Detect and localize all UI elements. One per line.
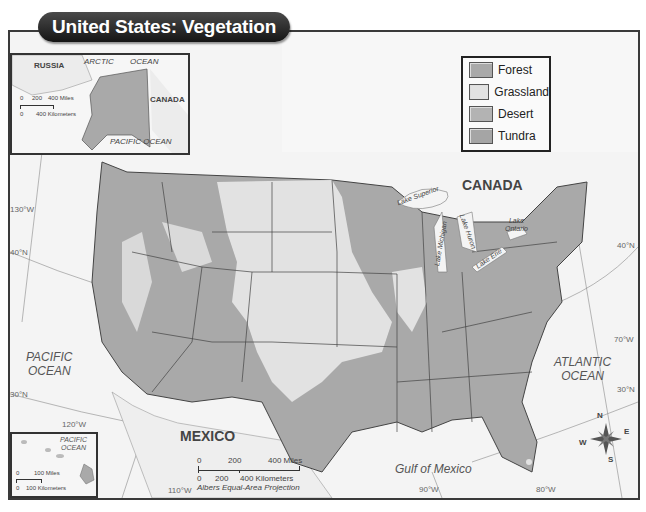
legend: Forest Grassland Desert Tundra xyxy=(461,56,551,152)
lon-70-label: 70°W xyxy=(614,335,634,344)
pacific-ocean-label: PACIFIC OCEAN xyxy=(26,350,72,378)
lon-110-label: 110°W xyxy=(168,486,192,495)
lon-120-label: 120°W xyxy=(62,420,86,429)
legend-item-tundra: Tundra xyxy=(469,125,549,146)
forest-swatch xyxy=(469,62,493,78)
mexico-label: MEXICO xyxy=(180,428,235,444)
lon-90-label: 90°W xyxy=(419,485,439,494)
atlantic-ocean-label: ATLANTIC OCEAN xyxy=(554,355,611,383)
hawaii-scale-bar xyxy=(16,479,42,483)
compass-e: E xyxy=(624,427,629,436)
arctic-ocean-label: OCEAN xyxy=(130,57,158,66)
projection-label: Albers Equal-Area Projection xyxy=(197,483,300,492)
legend-item-grassland: Grassland xyxy=(469,81,549,102)
tundra-swatch xyxy=(469,128,493,144)
hawaii-inset: PACIFIC OCEAN 0 100 Miles 0 100 Kilomete… xyxy=(10,432,98,498)
hawaii-pacific-label: PACIFIC OCEAN xyxy=(60,436,87,452)
lat-40-east-label: 40°N xyxy=(617,241,635,250)
compass-w: W xyxy=(579,438,587,447)
gulf-of-mexico-label: Gulf of Mexico xyxy=(395,462,472,476)
pacific-inset-label: PACIFIC OCEAN xyxy=(110,137,172,146)
grassland-swatch xyxy=(469,84,489,100)
compass-n: N xyxy=(597,411,603,420)
legend-item-desert: Desert xyxy=(469,103,549,124)
lake-ontario-label: Lake Ontario xyxy=(505,217,528,233)
arctic-label: ARCTIC xyxy=(84,57,114,66)
map-title: United States: Vegetation xyxy=(38,12,290,42)
compass-s: S xyxy=(608,455,613,464)
compass-rose-icon xyxy=(590,423,622,455)
lat-30-east-label: 30°N xyxy=(617,385,635,394)
legend-item-forest: Forest xyxy=(469,59,549,80)
desert-swatch xyxy=(469,106,493,122)
lon-130-label: 130°W xyxy=(10,205,34,214)
lat-30-west-label: 30°N xyxy=(10,390,28,399)
canada-inset-label: CANADA xyxy=(150,95,185,104)
russia-label: RUSSIA xyxy=(34,61,64,70)
lon-80-label: 80°W xyxy=(536,485,556,494)
alaska-inset: RUSSIA ARCTIC OCEAN CANADA PACIFIC OCEAN… xyxy=(10,53,190,155)
canada-label: CANADA xyxy=(462,177,523,193)
lat-40-west-label: 40°N xyxy=(10,248,28,257)
lake-okeechobee xyxy=(526,459,532,465)
